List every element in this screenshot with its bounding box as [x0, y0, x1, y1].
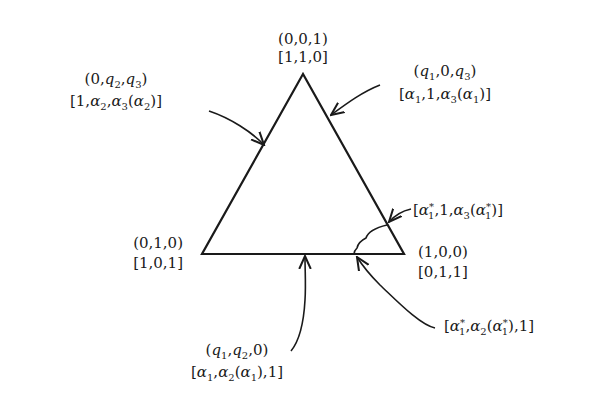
- top-vertex-image: [1,1,0]: [278, 48, 328, 66]
- left-edge-coords: (0,q2,q3): [85, 70, 148, 90]
- arrow-upper-point: [389, 209, 411, 222]
- right-vertex-coords: (1,0,0): [418, 243, 468, 261]
- arrow-bottom-edge: [291, 256, 305, 351]
- left-vertex-coords: (0,1,0): [133, 234, 183, 252]
- left-edge-image: [1,α2,α3(α2)]: [70, 92, 162, 112]
- arrow-right-edge: [331, 85, 380, 115]
- right-edge-coords: (q1,0,q3): [414, 62, 477, 82]
- bottom-edge-image: [α1,α2(α1),1]: [191, 363, 283, 383]
- boundary-curve: [354, 225, 387, 254]
- lower-point-label: [α*1,α2(α*1),1]: [444, 317, 534, 337]
- upper-point-label: [α*1,1,α3(α*1)]: [413, 201, 503, 221]
- arrow-left-edge: [209, 111, 264, 145]
- right-vertex-image: [0,1,1]: [418, 263, 468, 281]
- bottom-edge-coords: (q1,q2,0): [206, 341, 269, 361]
- top-vertex-coords: (0,0,1): [278, 30, 328, 48]
- simplex-triangle: [202, 74, 404, 254]
- simplex-diagram: (0,0,1) [1,1,0] (0,q2,q3) [1,α2,α3(α2)] …: [0, 0, 602, 412]
- left-vertex-image: [1,0,1]: [133, 254, 183, 272]
- right-edge-image: [α1,1,α3(α1)]: [399, 85, 491, 105]
